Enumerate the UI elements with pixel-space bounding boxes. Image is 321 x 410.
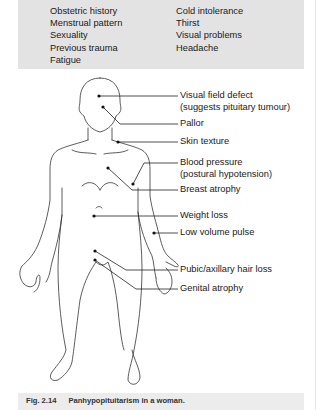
- history-column-right: Cold intolerance Thirst Visual problems …: [176, 5, 243, 54]
- annotation-line: Skin texture: [180, 136, 229, 148]
- history-item: Sexuality: [50, 29, 122, 41]
- history-item: Previous trauma: [50, 42, 122, 54]
- history-item: Obstetric history: [50, 5, 122, 17]
- annotation-line: Visual field defect: [180, 90, 290, 102]
- annotation-blood-pressure: Blood pressure (postural hypotension): [180, 157, 272, 180]
- annotation-line: Low volume pulse: [180, 227, 254, 239]
- figure-number: Fig. 2.14: [26, 396, 56, 405]
- history-item: Cold intolerance: [176, 5, 243, 17]
- annotation-visual-field-defect: Visual field defect (suggests pituitary …: [180, 90, 290, 113]
- figure-caption-bar: Fig. 2.14Panhypopituitarism in a woman.: [18, 393, 304, 410]
- annotation-line: Breast atrophy: [180, 184, 240, 196]
- history-box: Obstetric history Menstrual pattern Sexu…: [18, 0, 304, 69]
- annotation-line: Pallor: [180, 118, 204, 130]
- annotation-low-volume-pulse: Low volume pulse: [180, 227, 254, 239]
- annotation-line: (postural hypotension): [180, 169, 272, 181]
- annotation-breast-atrophy: Breast atrophy: [180, 184, 240, 196]
- figure-caption-text: Panhypopituitarism in a woman.: [68, 396, 184, 405]
- annotation-weight-loss: Weight loss: [180, 210, 228, 222]
- history-item: Fatigue: [50, 54, 122, 66]
- annotation-genital-atrophy: Genital atrophy: [180, 283, 243, 295]
- annotation-line: Pubic/axillary hair loss: [180, 264, 272, 276]
- history-item: Visual problems: [176, 29, 243, 41]
- annotation-hair-loss: Pubic/axillary hair loss: [180, 264, 272, 276]
- annotation-skin-texture: Skin texture: [180, 136, 229, 148]
- history-item: Menstrual pattern: [50, 17, 122, 29]
- history-item: Headache: [176, 42, 243, 54]
- figure-caption: Fig. 2.14Panhypopituitarism in a woman.: [26, 396, 185, 405]
- annotation-line: Blood pressure: [180, 157, 272, 169]
- history-item: Thirst: [176, 17, 243, 29]
- body-outline-illustration: [0, 70, 321, 392]
- annotation-line: (suggests pituitary tumour): [180, 102, 290, 114]
- annotation-line: Genital atrophy: [180, 283, 243, 295]
- annotation-pallor: Pallor: [180, 118, 204, 130]
- history-column-left: Obstetric history Menstrual pattern Sexu…: [50, 5, 122, 66]
- annotation-line: Weight loss: [180, 210, 228, 222]
